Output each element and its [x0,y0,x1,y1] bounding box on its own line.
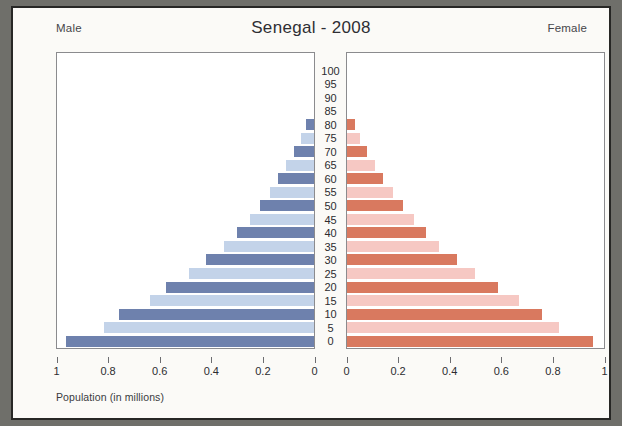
age-tick-60: 60 [316,173,345,187]
bar-row [57,77,314,91]
age-tick-55: 55 [316,186,345,200]
axis-tick-label-0.4: 0.4 [442,365,457,377]
bar-row [57,253,314,267]
bar-female-age-50 [347,200,403,211]
bar-row [347,240,604,254]
bar-row [57,267,314,281]
bar-row [57,145,314,159]
bar-female-age-5 [347,322,559,333]
bar-row [57,307,314,321]
bar-male-age-50 [260,200,314,211]
bar-male-age-20 [166,282,314,293]
age-tick-100: 100 [316,65,345,79]
bar-female-age-0 [347,336,593,347]
axis-tick-label-0: 0 [311,365,317,377]
bar-row [57,118,314,132]
bar-male-age-55 [270,187,314,198]
male-plot-panel [56,52,315,349]
age-tick-85: 85 [316,105,345,119]
axis-tick-label-0.4: 0.4 [204,365,219,377]
bar-male-age-25 [189,268,314,279]
bar-row [347,185,604,199]
bar-male-age-40 [237,227,314,238]
age-tick-40: 40 [316,227,345,241]
bar-row [57,172,314,186]
age-tick-80: 80 [316,119,345,133]
bar-male-age-80 [306,119,314,130]
age-tick-65: 65 [316,159,345,173]
bar-row [57,104,314,118]
bar-row [347,307,604,321]
age-tick-90: 90 [316,92,345,106]
bar-female-age-55 [347,187,393,198]
bar-row [347,91,604,105]
bar-female-age-15 [347,295,519,306]
bar-male-age-75 [301,133,314,144]
bar-row [347,280,604,294]
bar-row [57,131,314,145]
bar-row [57,334,314,348]
bar-row [347,118,604,132]
bar-male-age-70 [294,146,314,157]
bar-female-age-10 [347,309,542,320]
bar-male-age-60 [278,173,314,184]
bar-male-age-45 [250,214,314,225]
axis-caption: Population (in millions) [56,391,164,403]
figure-frame: Male Senegal - 2008 Female 0510152025303… [11,6,611,420]
age-tick-95: 95 [316,78,345,92]
population-pyramid-plot: 0510152025303540455055606570758085909510… [13,52,613,357]
bar-row [347,77,604,91]
axis-tick-label-0.2: 0.2 [255,365,270,377]
axis-tick-label-0.6: 0.6 [152,365,167,377]
bar-row [347,294,604,308]
bar-row [57,240,314,254]
bar-male-age-5 [104,322,314,333]
female-axis-labels: 00.20.40.60.81 [346,363,605,379]
female-plot-panel [346,52,605,349]
bar-female-age-25 [347,268,475,279]
axis-tick-label-0.6: 0.6 [494,365,509,377]
bar-row [347,145,604,159]
bar-male-age-10 [119,309,314,320]
male-axis-labels: 10.80.60.40.20 [56,363,315,379]
bar-row [347,104,604,118]
bar-female-age-30 [347,254,457,265]
bar-row [347,267,604,281]
bar-female-age-70 [347,146,367,157]
axis-tick-label-1: 1 [601,365,607,377]
male-bar-group [57,53,314,348]
axis-tick-label-0: 0 [343,365,349,377]
bar-row [347,64,604,78]
bar-female-age-45 [347,214,414,225]
age-tick-45: 45 [316,214,345,228]
bar-female-age-65 [347,160,375,171]
bar-row [347,158,604,172]
axis-tick-label-1: 1 [53,365,59,377]
bar-female-age-40 [347,227,426,238]
bar-row [57,185,314,199]
age-tick-15: 15 [316,295,345,309]
age-tick-75: 75 [316,132,345,146]
bar-female-age-80 [347,119,355,130]
bar-row [57,91,314,105]
bar-row [347,172,604,186]
age-tick-20: 20 [316,281,345,295]
bar-row [57,199,314,213]
axis-tick-label-0.2: 0.2 [390,365,405,377]
bar-row [347,199,604,213]
age-tick-50: 50 [316,200,345,214]
bar-male-age-65 [286,160,314,171]
bar-row [57,158,314,172]
age-tick-5: 5 [316,322,345,336]
bar-male-age-30 [206,254,314,265]
age-axis: 0510152025303540455055606570758085909510… [316,52,345,349]
age-tick-10: 10 [316,308,345,322]
female-panel-label: Female [547,22,587,34]
bar-female-age-20 [347,282,498,293]
age-tick-70: 70 [316,146,345,160]
age-tick-35: 35 [316,241,345,255]
age-tick-30: 30 [316,254,345,268]
bar-row [57,226,314,240]
bar-row [347,213,604,227]
female-value-axis: 00.20.40.60.81 [346,357,605,383]
